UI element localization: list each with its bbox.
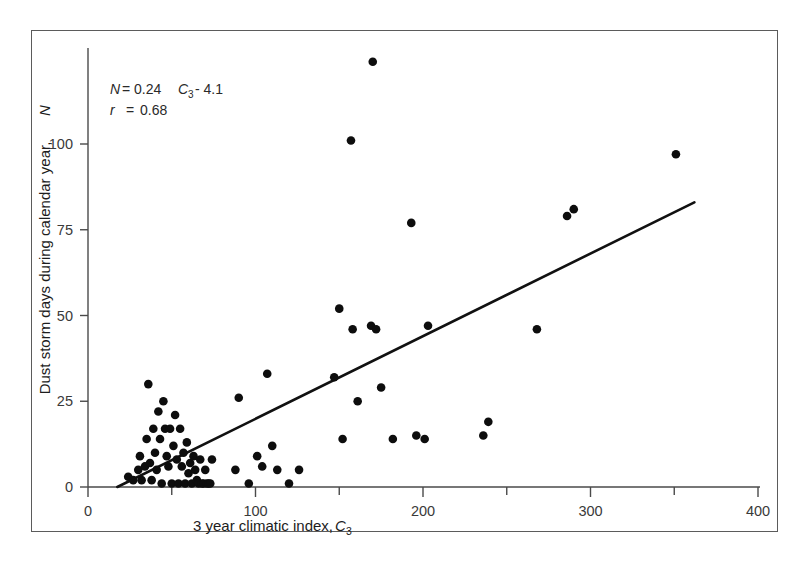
data-point — [424, 321, 433, 330]
data-point — [347, 136, 356, 145]
correlation-label: r — [110, 102, 116, 118]
data-point — [154, 407, 163, 416]
data-point — [389, 435, 398, 444]
data-point — [201, 466, 210, 475]
data-point — [377, 383, 386, 392]
data-point — [563, 212, 572, 221]
equation-var-subscript: 3 — [188, 89, 194, 100]
data-point — [144, 380, 153, 389]
data-point — [285, 479, 294, 488]
data-point — [245, 479, 254, 488]
data-point — [129, 476, 138, 485]
data-point — [330, 373, 339, 382]
regression-line — [117, 202, 694, 487]
data-point-group — [124, 57, 680, 487]
y-axis-title-text: Dust storm days during calendar year, — [36, 142, 53, 395]
data-point — [479, 431, 488, 440]
data-point — [234, 394, 243, 403]
data-point — [672, 150, 681, 159]
annotation-correlation: r = 0.68 — [110, 102, 167, 118]
x-tick-label: 400 — [746, 503, 770, 519]
data-point — [176, 424, 185, 433]
x-tick-label: 200 — [411, 503, 435, 519]
equation-rhs: - 4.1 — [195, 81, 223, 97]
data-point — [348, 325, 357, 334]
data-point — [412, 431, 421, 440]
y-tick-label: 25 — [57, 393, 73, 409]
y-tick-label: 50 — [57, 308, 73, 324]
data-point — [258, 462, 267, 471]
data-point — [196, 455, 205, 464]
data-point — [157, 479, 166, 488]
data-point — [208, 455, 217, 464]
y-axis-ticks: 0255075100 — [49, 136, 88, 495]
scatter-plot: 0255075100 0100200300400 N = 0.24 C 3 - … — [0, 0, 811, 563]
x-tick-label: 300 — [578, 503, 602, 519]
data-point — [156, 435, 165, 444]
data-point — [179, 448, 188, 457]
data-point — [569, 205, 578, 214]
data-point — [171, 411, 180, 420]
data-point — [295, 466, 304, 475]
data-point — [368, 57, 377, 66]
x-axis-ticks: 0100200300400 — [84, 487, 770, 519]
correlation-value: 0.68 — [140, 102, 167, 118]
equation-eq: = 0.24 — [122, 81, 162, 97]
data-point — [263, 370, 272, 379]
data-point — [164, 462, 173, 471]
data-point — [136, 452, 145, 461]
data-point — [151, 448, 160, 457]
data-point — [162, 452, 171, 461]
data-point — [142, 435, 151, 444]
data-point — [178, 462, 187, 471]
data-point — [172, 455, 181, 464]
data-point — [353, 397, 362, 406]
y-tick-label: 0 — [65, 479, 73, 495]
data-point — [253, 452, 262, 461]
y-axis-title: Dust storm days during calendar year, N — [36, 105, 53, 394]
data-point — [420, 435, 429, 444]
data-point — [338, 435, 347, 444]
x-axis-title-text: 3 year climatic index, — [193, 517, 333, 534]
data-point — [159, 397, 168, 406]
x-axis-title-subscript: 3 — [346, 525, 352, 537]
equation-lhs: N — [110, 81, 121, 97]
data-point — [183, 438, 192, 447]
data-point — [273, 466, 282, 475]
data-point — [149, 424, 158, 433]
data-point — [484, 418, 493, 427]
annotation-equation: N = 0.24 C 3 - 4.1 — [110, 81, 223, 100]
data-point — [231, 466, 240, 475]
data-point — [533, 325, 542, 334]
data-point — [191, 466, 200, 475]
data-point — [407, 219, 416, 228]
data-point — [166, 424, 175, 433]
y-axis-title-var: N — [36, 105, 53, 116]
data-point — [268, 442, 277, 451]
y-tick-label: 75 — [57, 222, 73, 238]
data-point — [206, 479, 215, 488]
correlation-eq: = — [126, 102, 134, 118]
data-point — [335, 304, 344, 313]
x-axis-title: 3 year climatic index, C 3 — [193, 517, 352, 537]
data-point — [152, 466, 161, 475]
data-point — [147, 476, 156, 485]
data-point — [137, 476, 146, 485]
x-axis-title-var: C — [335, 517, 346, 534]
x-tick-label: 0 — [84, 503, 92, 519]
data-point — [169, 442, 178, 451]
data-point — [372, 325, 381, 334]
data-point — [146, 459, 155, 468]
